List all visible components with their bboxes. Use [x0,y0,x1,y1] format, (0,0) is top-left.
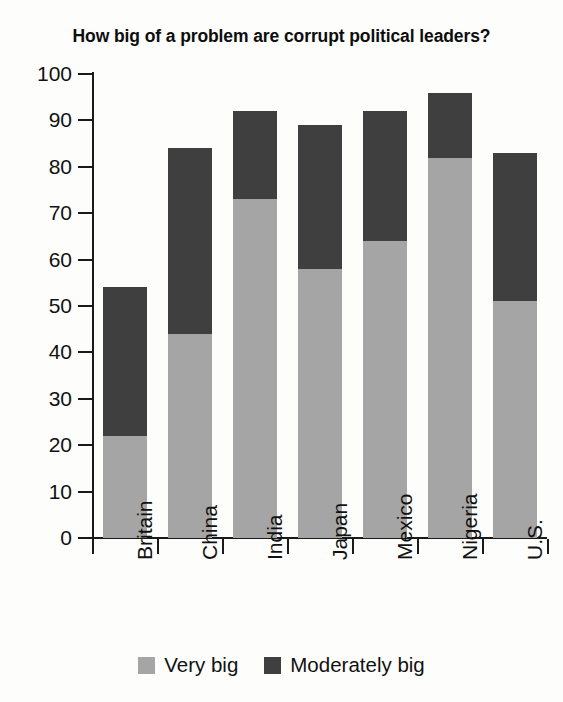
x-axis-tick [482,539,484,554]
y-axis-tick-label: 20 [0,434,72,455]
stacked-bar-chart: How big of a problem are corrupt politic… [0,0,563,702]
bar-us[interactable] [493,74,537,538]
y-axis-tick-label: 50 [0,295,72,316]
y-axis-tick-label: 40 [0,341,72,362]
x-axis-tick [417,539,419,554]
y-axis-tick-label: 60 [0,249,72,270]
legend-item-very-big[interactable]: Very big [138,655,238,676]
bar-nigeria[interactable] [428,74,472,538]
x-axis-category-text: Nigeria [459,493,480,560]
y-axis-tick [78,73,92,75]
bar-segment-very-big[interactable] [298,269,342,538]
y-axis-tick-label: 100 [0,63,72,84]
bar-segment-very-big[interactable] [428,158,472,538]
legend-item-moderately-big[interactable]: Moderately big [264,655,424,676]
y-axis-tick-label: 10 [0,481,72,502]
y-axis-tick [78,351,92,353]
y-axis-tick [78,398,92,400]
legend-swatch-icon [264,657,281,674]
x-axis-tick [222,539,224,554]
x-axis-category-text: Mexico [394,493,415,560]
y-axis-tick [78,444,92,446]
bar-britain[interactable] [103,74,147,538]
legend-label: Very big [164,655,238,676]
y-axis-tick [78,259,92,261]
y-axis-tick-label: 70 [0,202,72,223]
bar-segment-moderately-big[interactable] [363,111,407,241]
x-axis-category-text: U.S. [524,519,545,560]
y-axis-line [92,72,94,540]
bar-segment-very-big[interactable] [493,301,537,538]
y-axis-tick [78,491,92,493]
x-axis-tick [287,539,289,554]
x-axis-category-text: China [199,505,220,560]
bar-segment-moderately-big[interactable] [233,111,277,199]
legend-label: Moderately big [290,655,424,676]
y-axis-tick-label: 80 [0,156,72,177]
bar-mexico[interactable] [363,74,407,538]
bar-japan[interactable] [298,74,342,538]
bar-segment-moderately-big[interactable] [493,153,537,301]
bar-segment-moderately-big[interactable] [103,287,147,435]
bar-india[interactable] [233,74,277,538]
y-axis-tick-label: 30 [0,388,72,409]
x-axis-tick [157,539,159,554]
x-axis-category-text: Japan [329,503,350,560]
legend-swatch-icon [138,657,155,674]
y-axis-tick [78,119,92,121]
x-axis-tick [547,539,549,554]
bar-segment-moderately-big[interactable] [168,148,212,334]
x-axis-category-text: India [264,514,285,560]
bar-china[interactable] [168,74,212,538]
y-axis-tick [78,537,92,539]
y-axis-tick [78,166,92,168]
x-axis-tick [352,539,354,554]
y-axis-tick [78,305,92,307]
chart-legend: Very bigModerately big [0,655,563,676]
chart-title: How big of a problem are corrupt politic… [0,26,563,47]
y-axis-tick-label: 90 [0,109,72,130]
x-axis-category-text: Britain [134,500,155,560]
bar-segment-moderately-big[interactable] [298,125,342,269]
bar-segment-very-big[interactable] [233,199,277,538]
y-axis-tick [78,212,92,214]
y-axis-tick-label: 0 [0,527,72,548]
bar-segment-moderately-big[interactable] [428,93,472,158]
x-axis-tick [92,539,94,554]
